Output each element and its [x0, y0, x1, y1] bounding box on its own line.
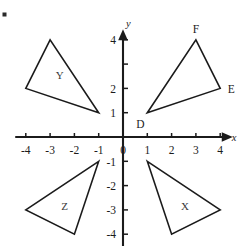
x-axis-label: x — [231, 132, 237, 143]
vertex-label-f: F — [193, 23, 199, 35]
triangle-x — [147, 161, 220, 234]
y-tick-label: 4 — [110, 34, 116, 46]
y-tick-label: -3 — [106, 204, 116, 216]
triangle-x-label: X — [181, 200, 189, 212]
corner-artifact-mark — [3, 13, 7, 17]
x-tick-label: -4 — [21, 144, 31, 156]
x-tick-label: 0 — [120, 144, 126, 156]
y-axis-arrow-icon — [118, 29, 128, 40]
y-tick-label: -2 — [106, 180, 116, 192]
y-tick-label: -4 — [106, 228, 116, 240]
x-tick-label: 4 — [217, 144, 223, 156]
x-tick-label: -1 — [94, 144, 104, 156]
x-tick-label: -2 — [70, 144, 80, 156]
vertex-label-e: E — [228, 83, 235, 95]
triangle-z — [26, 161, 99, 234]
triangle-def — [147, 40, 220, 113]
x-tick-label: -3 — [45, 144, 55, 156]
triangle-y-label: Y — [56, 69, 64, 81]
y-tick-label: -1 — [106, 156, 116, 168]
y-axis-label: y — [125, 18, 131, 29]
x-tick-label: 2 — [169, 144, 175, 156]
y-tick-label: 1 — [110, 107, 116, 119]
coordinate-plane-svg: xy-4-3-2-101234421-1-2-3-4DFEYZX — [0, 0, 243, 246]
y-tick-label: 2 — [110, 83, 116, 95]
x-tick-label: 1 — [144, 144, 150, 156]
vertex-label-d: D — [136, 118, 144, 130]
triangle-z-label: Z — [61, 200, 68, 212]
coordinate-plane-figure: xy-4-3-2-101234421-1-2-3-4DFEYZX — [0, 0, 243, 246]
x-tick-label: 3 — [193, 144, 199, 156]
